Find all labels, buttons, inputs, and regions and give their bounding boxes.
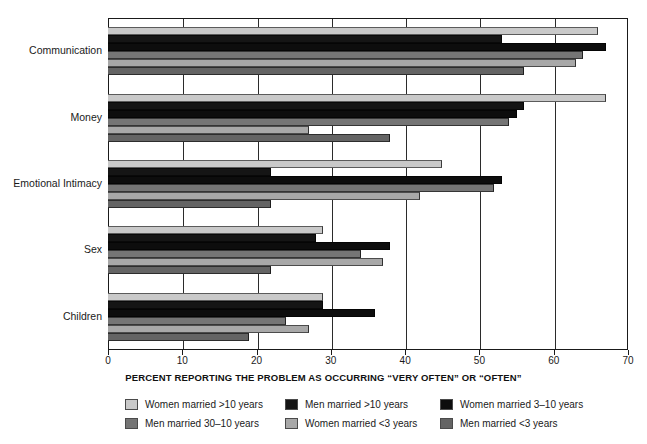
chart-legend: Women married >10 yearsMen married 30–10… — [0, 396, 647, 440]
legend-label: Women married <3 years — [305, 418, 417, 429]
legend-swatch-icon — [440, 399, 453, 410]
x-tick-label: 60 — [539, 355, 569, 366]
category-label: Money — [0, 111, 102, 123]
bar-chart: CommunicationMoneyEmotional IntimacySexC… — [0, 0, 647, 444]
x-axis-title: PERCENT REPORTING THE PROBLEM AS OCCURRI… — [0, 372, 647, 383]
legend-item[interactable]: Men married >10 years — [285, 396, 417, 413]
x-tick-label: 20 — [242, 355, 272, 366]
legend-item[interactable]: Men married 30–10 years — [125, 415, 263, 432]
x-axis: 010203040506070 — [108, 350, 628, 370]
legend-item[interactable]: Women married 3–10 years — [440, 396, 583, 413]
category-label: Communication — [0, 44, 102, 56]
legend-column: Women married 3–10 yearsMen married <3 y… — [440, 396, 583, 434]
legend-label: Women married >10 years — [145, 399, 263, 410]
legend-item[interactable]: Women married <3 years — [285, 415, 417, 432]
x-tick-label: 40 — [390, 355, 420, 366]
category-label: Emotional Intimacy — [0, 177, 102, 189]
legend-item[interactable]: Women married >10 years — [125, 396, 263, 413]
legend-swatch-icon — [285, 418, 298, 429]
legend-swatch-icon — [125, 418, 138, 429]
legend-swatch-icon — [125, 399, 138, 410]
category-axis-labels: CommunicationMoneyEmotional IntimacySexC… — [0, 18, 647, 350]
x-tick-label: 50 — [464, 355, 494, 366]
category-label: Children — [0, 310, 102, 322]
x-tick-label: 0 — [93, 355, 123, 366]
legend-column: Men married >10 yearsWomen married <3 ye… — [285, 396, 417, 434]
category-label: Sex — [0, 243, 102, 255]
x-tick-label: 70 — [613, 355, 643, 366]
legend-label: Men married >10 years — [305, 399, 408, 410]
legend-label: Men married 30–10 years — [145, 418, 259, 429]
legend-column: Women married >10 yearsMen married 30–10… — [125, 396, 263, 434]
legend-label: Men married <3 years — [460, 418, 558, 429]
legend-item[interactable]: Men married <3 years — [440, 415, 583, 432]
legend-swatch-icon — [440, 418, 453, 429]
x-tick-label: 10 — [167, 355, 197, 366]
legend-label: Women married 3–10 years — [460, 399, 583, 410]
legend-swatch-icon — [285, 399, 298, 410]
x-tick-label: 30 — [316, 355, 346, 366]
